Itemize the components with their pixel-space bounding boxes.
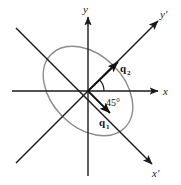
vector-q1-label: q	[99, 116, 106, 128]
angle-arc-45	[100, 80, 104, 91]
angle-label-45: 45°	[106, 97, 120, 108]
coordinate-diagram: x y y' x' q 2 q 1 45°	[0, 0, 181, 185]
y-axis-label: y	[82, 3, 88, 15]
x-axis-label: x	[162, 85, 168, 97]
x-prime-axis-label: x'	[151, 167, 160, 179]
vector-q2-subscript: 2	[127, 69, 131, 77]
y-prime-axis	[16, 21, 158, 163]
y-prime-axis-label: y'	[159, 8, 168, 20]
vector-q1-subscript: 1	[106, 123, 110, 131]
vector-q2-label: q	[120, 62, 127, 74]
figure-container: x y y' x' q 2 q 1 45°	[0, 0, 181, 185]
